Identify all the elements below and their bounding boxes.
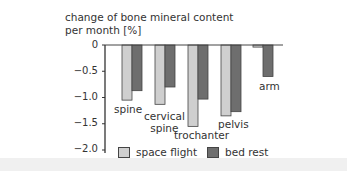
legend-swatch-bed-rest	[207, 147, 219, 158]
bar-cervical-spine-bed-rest	[165, 45, 175, 87]
legend-bed-rest: bed rest	[207, 146, 268, 158]
legend-swatch-space-flight	[118, 147, 130, 158]
category-label-trochanter: trochanter	[174, 129, 229, 141]
bar-pelvis-space-flight	[221, 45, 231, 116]
bar-arm-bed-rest	[263, 45, 273, 77]
bar-pelvis-bed-rest	[231, 45, 241, 112]
legend-space-flight: space flight	[118, 146, 197, 158]
bar-spine-bed-rest	[132, 45, 142, 91]
bar-trochanter-space-flight	[188, 45, 198, 126]
bar-trochanter-bed-rest	[198, 45, 208, 99]
bar-spine-space-flight	[122, 45, 132, 100]
category-label-arm: arm	[259, 80, 280, 92]
bar-cervical-spine-space-flight	[155, 45, 165, 104]
legend-label-bed-rest: bed rest	[225, 146, 268, 158]
category-label-pelvis: pelvis	[218, 118, 249, 130]
category-label-spine: spine	[114, 103, 142, 115]
legend-label-space-flight: space flight	[136, 146, 197, 158]
cervical-line-1: cervical	[144, 110, 185, 122]
